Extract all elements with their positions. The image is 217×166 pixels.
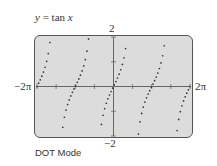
- data-point: [160, 62, 162, 64]
- data-point: [86, 50, 88, 52]
- data-point: [36, 86, 38, 88]
- data-point: [88, 38, 90, 40]
- data-point: [120, 69, 122, 71]
- data-point: [113, 84, 115, 86]
- data-point: [125, 48, 127, 50]
- data-point: [73, 88, 75, 90]
- data-point: [154, 80, 156, 82]
- data-point: [141, 113, 143, 115]
- data-point: [147, 93, 149, 95]
- data-point: [146, 97, 148, 99]
- data-point: [144, 101, 146, 103]
- data-point: [68, 99, 70, 101]
- data-point: [49, 42, 51, 44]
- data-point: [183, 100, 185, 102]
- data-point: [163, 45, 165, 47]
- data-point: [67, 104, 69, 106]
- data-point: [149, 90, 151, 92]
- data-point: [186, 92, 188, 94]
- data-point: [70, 95, 72, 97]
- data-point: [138, 133, 140, 135]
- data-point: [155, 76, 157, 78]
- data-point: [122, 64, 124, 66]
- y-max-label: 2: [109, 22, 115, 34]
- data-point: [38, 82, 40, 84]
- data-point: [139, 121, 141, 123]
- data-point: [112, 87, 114, 89]
- data-point: [101, 124, 103, 126]
- data-point: [102, 114, 104, 116]
- data-point: [117, 77, 119, 79]
- data-point: [84, 59, 86, 61]
- data-point: [47, 53, 49, 55]
- data-point: [81, 70, 83, 72]
- data-point: [157, 72, 159, 74]
- data-point: [62, 126, 64, 128]
- data-point: [184, 96, 186, 98]
- data-point: [189, 86, 191, 88]
- data-point: [123, 57, 125, 59]
- data-point: [105, 102, 107, 104]
- data-point: [44, 66, 46, 68]
- data-point: [152, 83, 154, 85]
- x-max-label: 2π: [195, 80, 206, 92]
- data-point: [188, 89, 190, 91]
- data-point: [181, 105, 183, 107]
- data-point: [110, 91, 112, 93]
- data-point: [162, 55, 164, 57]
- data-point: [64, 116, 66, 118]
- data-point: [109, 94, 111, 96]
- data-point: [65, 109, 67, 111]
- data-point: [104, 108, 106, 110]
- data-point: [72, 91, 74, 93]
- data-point: [78, 78, 80, 80]
- data-point: [43, 71, 45, 73]
- data-point: [75, 85, 77, 87]
- mode-label: DOT Mode: [35, 147, 81, 158]
- data-point: [159, 68, 161, 70]
- data-point: [142, 106, 144, 108]
- data-point: [107, 98, 109, 100]
- data-point: [80, 74, 82, 76]
- data-point: [39, 79, 41, 81]
- data-point: [83, 65, 85, 67]
- data-point: [179, 111, 181, 113]
- data-point: [178, 119, 180, 121]
- data-point: [115, 81, 117, 83]
- data-point: [46, 60, 48, 62]
- data-point: [118, 73, 120, 75]
- data-point: [76, 82, 78, 84]
- x-min-label: −2π: [14, 80, 31, 92]
- data-point: [41, 75, 43, 77]
- data-point: [151, 86, 153, 88]
- data-point: [176, 130, 178, 132]
- y-min-label: −2: [104, 137, 116, 149]
